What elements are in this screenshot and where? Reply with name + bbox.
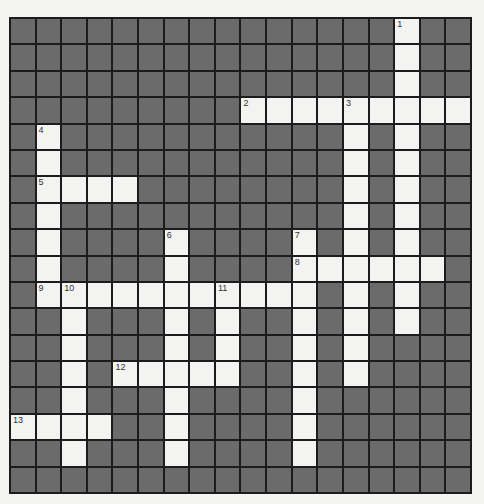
- answer-cell[interactable]: [62, 177, 86, 201]
- answer-cell[interactable]: [37, 230, 61, 254]
- answer-cell[interactable]: [216, 362, 240, 386]
- answer-cell[interactable]: 11: [216, 283, 240, 307]
- block-cell: [344, 468, 368, 492]
- answer-cell[interactable]: [395, 257, 419, 281]
- answer-cell[interactable]: [62, 362, 86, 386]
- answer-cell[interactable]: [62, 441, 86, 465]
- answer-cell[interactable]: [395, 177, 419, 201]
- answer-cell[interactable]: [293, 388, 317, 412]
- block-cell: [293, 151, 317, 175]
- answer-cell[interactable]: [395, 283, 419, 307]
- answer-cell[interactable]: [293, 362, 317, 386]
- answer-cell[interactable]: [395, 125, 419, 149]
- answer-cell[interactable]: [216, 336, 240, 360]
- answer-cell[interactable]: [165, 415, 189, 439]
- answer-cell[interactable]: [267, 98, 291, 122]
- answer-cell[interactable]: [395, 98, 419, 122]
- answer-cell[interactable]: 6: [165, 230, 189, 254]
- answer-cell[interactable]: [395, 309, 419, 333]
- answer-cell[interactable]: 4: [37, 125, 61, 149]
- block-cell: [11, 204, 35, 228]
- answer-cell[interactable]: [344, 204, 368, 228]
- answer-cell[interactable]: 9: [37, 283, 61, 307]
- answer-cell[interactable]: [395, 151, 419, 175]
- answer-cell[interactable]: [88, 283, 112, 307]
- answer-cell[interactable]: [293, 415, 317, 439]
- answer-cell[interactable]: [293, 309, 317, 333]
- answer-cell[interactable]: [344, 125, 368, 149]
- answer-cell[interactable]: 2: [241, 98, 265, 122]
- answer-cell[interactable]: [37, 151, 61, 175]
- block-cell: [216, 468, 240, 492]
- answer-cell[interactable]: [293, 336, 317, 360]
- answer-cell[interactable]: [293, 441, 317, 465]
- answer-cell[interactable]: [421, 98, 445, 122]
- block-cell: [139, 19, 163, 43]
- answer-cell[interactable]: [318, 257, 342, 281]
- answer-cell[interactable]: [190, 283, 214, 307]
- answer-cell[interactable]: [370, 257, 394, 281]
- answer-cell[interactable]: [344, 230, 368, 254]
- answer-cell[interactable]: 3: [344, 98, 368, 122]
- answer-cell[interactable]: [267, 283, 291, 307]
- answer-cell[interactable]: [62, 309, 86, 333]
- answer-cell[interactable]: [395, 204, 419, 228]
- answer-cell[interactable]: [139, 362, 163, 386]
- answer-cell[interactable]: 8: [293, 257, 317, 281]
- answer-cell[interactable]: [113, 177, 137, 201]
- answer-cell[interactable]: [293, 98, 317, 122]
- answer-cell[interactable]: [344, 309, 368, 333]
- answer-cell[interactable]: [165, 441, 189, 465]
- answer-cell[interactable]: [62, 336, 86, 360]
- answer-cell[interactable]: [216, 309, 240, 333]
- answer-cell[interactable]: [37, 415, 61, 439]
- answer-cell[interactable]: [139, 283, 163, 307]
- answer-cell[interactable]: [62, 388, 86, 412]
- answer-cell[interactable]: 12: [113, 362, 137, 386]
- block-cell: [446, 257, 470, 281]
- answer-cell[interactable]: [165, 362, 189, 386]
- answer-cell[interactable]: 1: [395, 19, 419, 43]
- block-cell: [88, 72, 112, 96]
- answer-cell[interactable]: [446, 98, 470, 122]
- answer-cell[interactable]: [318, 98, 342, 122]
- answer-cell[interactable]: [62, 415, 86, 439]
- answer-cell[interactable]: [113, 283, 137, 307]
- answer-cell[interactable]: [395, 72, 419, 96]
- clue-number: 13: [13, 416, 23, 425]
- answer-cell[interactable]: [344, 151, 368, 175]
- answer-cell[interactable]: [165, 257, 189, 281]
- block-cell: [241, 19, 265, 43]
- block-cell: [62, 257, 86, 281]
- answer-cell[interactable]: [421, 257, 445, 281]
- answer-cell[interactable]: [293, 283, 317, 307]
- answer-cell[interactable]: [165, 388, 189, 412]
- block-cell: [139, 151, 163, 175]
- answer-cell[interactable]: [395, 45, 419, 69]
- answer-cell[interactable]: [395, 230, 419, 254]
- block-cell: [421, 45, 445, 69]
- answer-cell[interactable]: [88, 177, 112, 201]
- answer-cell[interactable]: 13: [11, 415, 35, 439]
- answer-cell[interactable]: 10: [62, 283, 86, 307]
- answer-cell[interactable]: [165, 283, 189, 307]
- block-cell: [139, 98, 163, 122]
- block-cell: [446, 309, 470, 333]
- answer-cell[interactable]: [88, 415, 112, 439]
- answer-cell[interactable]: [37, 257, 61, 281]
- answer-cell[interactable]: 5: [37, 177, 61, 201]
- answer-cell[interactable]: 7: [293, 230, 317, 254]
- block-cell: [370, 72, 394, 96]
- answer-cell[interactable]: [370, 98, 394, 122]
- answer-cell[interactable]: [344, 283, 368, 307]
- answer-cell[interactable]: [241, 283, 265, 307]
- answer-cell[interactable]: [344, 257, 368, 281]
- answer-cell[interactable]: [344, 177, 368, 201]
- block-cell: [216, 441, 240, 465]
- answer-cell[interactable]: [344, 362, 368, 386]
- answer-cell[interactable]: [37, 204, 61, 228]
- answer-cell[interactable]: [344, 336, 368, 360]
- answer-cell[interactable]: [165, 336, 189, 360]
- answer-cell[interactable]: [190, 362, 214, 386]
- answer-cell[interactable]: [165, 309, 189, 333]
